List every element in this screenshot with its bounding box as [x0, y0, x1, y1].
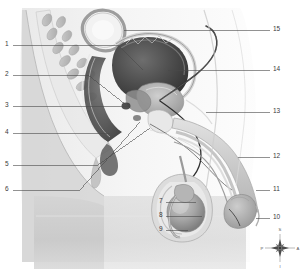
compass-label-posterior: P	[261, 246, 264, 251]
figure-root: 1 2 3 4 5 6 7 8 9 15 14 13 12 11 10 S I …	[0, 0, 303, 269]
orientation-compass: S I P A	[0, 0, 303, 269]
compass-label-anterior: A	[297, 246, 300, 251]
compass-label-superior: S	[279, 227, 282, 232]
compass-center-dot	[279, 247, 281, 249]
compass-label-inferior: I	[279, 264, 280, 269]
